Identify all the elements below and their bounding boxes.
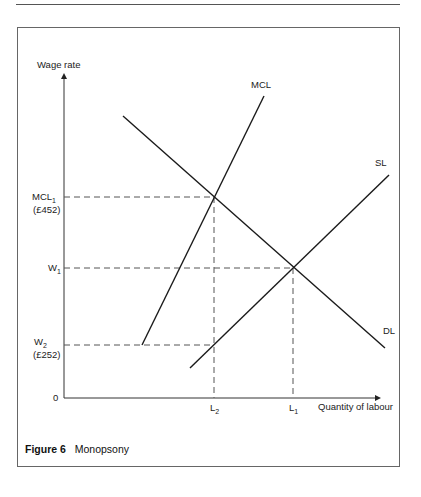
- mcl-curve: [142, 96, 264, 345]
- y-tick-w2: W2 (£252): [33, 336, 60, 360]
- y-tick-w1: W1: [48, 262, 61, 275]
- svg-text:L2: L2: [210, 402, 219, 415]
- svg-text:(£452): (£452): [33, 204, 60, 215]
- x-tick-l1: L1: [289, 402, 298, 415]
- x-tick-l2: L2: [210, 402, 219, 415]
- y-tick-mcl1: MCL1 (£452): [32, 191, 60, 215]
- figure-title: Monopsony: [75, 443, 129, 455]
- origin-label: 0: [53, 392, 58, 403]
- svg-text:W1: W1: [48, 262, 61, 275]
- mcl-label: MCL: [251, 79, 271, 90]
- monopsony-chart: MCL SL DL Wage rate Quantity of labour 0…: [0, 0, 421, 497]
- dl-curve: [123, 116, 385, 348]
- svg-text:L1: L1: [289, 402, 298, 415]
- svg-text:W2: W2: [34, 336, 47, 349]
- figure-number: Figure 6: [25, 443, 66, 455]
- svg-text:MCL1: MCL1: [32, 191, 56, 204]
- sl-curve: [190, 175, 389, 368]
- x-axis-title: Quantity of labour: [318, 401, 393, 412]
- svg-text:(£252): (£252): [33, 349, 60, 360]
- sl-label: SL: [375, 157, 387, 168]
- figure-caption: Figure 6 Monopsony: [25, 443, 129, 455]
- dl-label: DL: [383, 325, 395, 336]
- y-axis-title: Wage rate: [37, 59, 80, 70]
